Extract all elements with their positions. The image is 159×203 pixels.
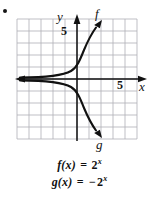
- curve-g: [20, 80, 102, 138]
- exponential-functions-figure: y x f g 5 5 f(x) = 2x g(x) = −2x: [0, 0, 159, 203]
- equation-list: f(x) = 2x g(x) = −2x: [0, 157, 159, 191]
- equation-g: g(x) = −2x: [0, 174, 159, 191]
- y-axis-label: y: [57, 10, 63, 23]
- graph-plot-area: y x f g 5 5: [0, 0, 159, 155]
- y-axis-tick-label-5: 5: [61, 25, 67, 37]
- x-axis-tick-label-5: 5: [117, 79, 123, 91]
- x-axis-left-arrowhead: [15, 75, 25, 82]
- y-axis: [74, 14, 81, 141]
- equation-f-function: f(x): [57, 158, 76, 172]
- equation-g-function: g(x): [52, 175, 73, 189]
- coordinate-plane-svg: [0, 0, 159, 155]
- equation-f-equals: =: [79, 158, 88, 172]
- x-axis-label: x: [139, 80, 145, 93]
- equation-g-sign: −: [88, 175, 97, 189]
- equation-f-exponent: x: [98, 157, 102, 166]
- equation-g-equals: =: [76, 175, 85, 189]
- equation-f: f(x) = 2x: [0, 157, 159, 174]
- equation-g-exponent: x: [103, 174, 107, 183]
- curve-f-label: f: [95, 7, 99, 20]
- curve-g-label: g: [96, 138, 103, 151]
